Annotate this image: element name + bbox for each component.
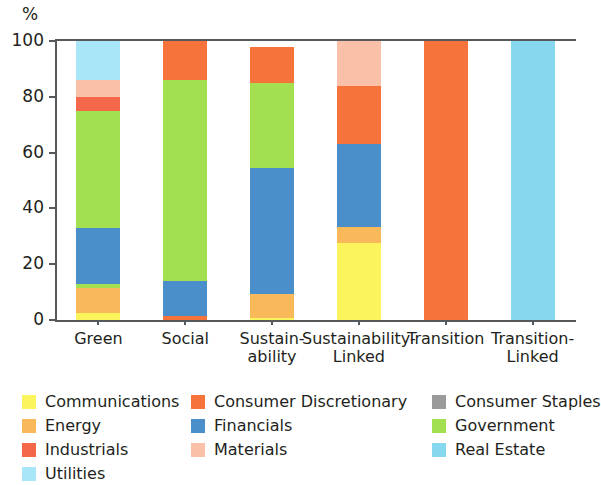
bar-segment-consumer-discretionary[interactable] (250, 47, 294, 83)
bar-segment-materials[interactable] (76, 80, 120, 97)
bar-segment-energy[interactable] (337, 227, 381, 244)
bar-segment-communications[interactable] (76, 313, 120, 320)
legend-item-communications[interactable]: Communications (22, 390, 179, 414)
x-axis-line (55, 320, 576, 322)
legend-swatch-consumer_staples (432, 395, 446, 409)
legend-label-real_estate: Real Estate (455, 442, 545, 458)
legend-swatch-communications (22, 395, 36, 409)
y-axis-tick-label-0: 0 (0, 311, 44, 328)
legend-item-energy[interactable]: Energy (22, 414, 179, 438)
y-axis-tick-label-100: 100 (0, 32, 44, 49)
legend-column-3: Consumer StaplesGovernmentReal Estate (432, 390, 601, 462)
legend-swatch-consumer_discretionary (191, 395, 205, 409)
bar-segment-financials[interactable] (163, 281, 207, 316)
bar-social[interactable] (163, 41, 207, 320)
x-axis-label-transition-linked: Transition-Linked (473, 330, 593, 366)
legend-column-1: CommunicationsEnergyIndustrialsUtilities (22, 390, 179, 485)
bar-segment-government[interactable] (250, 83, 294, 168)
x-axis-tick-5 (532, 320, 534, 325)
x-axis-label-line: Linked (299, 348, 419, 366)
bar-segment-industrials[interactable] (76, 97, 120, 111)
y-axis-unit-label: % (22, 4, 38, 24)
bar-segment-utilities[interactable] (76, 41, 120, 80)
legend-item-financials[interactable]: Financials (191, 414, 407, 438)
bar-segment-government[interactable] (76, 111, 120, 228)
bar-sustainability[interactable] (250, 41, 294, 320)
legend-item-government[interactable]: Government (432, 414, 601, 438)
bar-green[interactable] (76, 41, 120, 320)
bar-segment-communications[interactable] (250, 318, 294, 320)
bar-segment-government[interactable] (163, 80, 207, 281)
legend-label-energy: Energy (45, 418, 101, 434)
legend-swatch-real_estate (432, 443, 446, 457)
legend-swatch-materials (191, 443, 205, 457)
bar-segment-energy[interactable] (76, 288, 120, 313)
legend-label-communications: Communications (45, 394, 179, 410)
x-axis-label-line: Linked (473, 348, 593, 366)
bar-segment-consumer-discretionary[interactable] (424, 41, 468, 320)
legend-swatch-financials (191, 419, 205, 433)
bar-segment-consumer-discretionary[interactable] (163, 41, 207, 80)
bar-segment-financials[interactable] (250, 168, 294, 294)
bar-segment-consumer-discretionary[interactable] (337, 86, 381, 145)
x-axis-tick-2 (271, 320, 273, 325)
bar-segment-real-estate[interactable] (511, 41, 555, 320)
legend-label-financials: Financials (214, 418, 292, 434)
legend-item-consumer_discretionary[interactable]: Consumer Discretionary (191, 390, 407, 414)
y-axis-tick-label-80: 80 (0, 88, 44, 105)
legend-label-industrials: Industrials (45, 442, 128, 458)
bar-segment-consumer-discretionary[interactable] (163, 316, 207, 320)
bar-segment-communications[interactable] (337, 243, 381, 320)
legend-swatch-government (432, 419, 446, 433)
legend-item-utilities[interactable]: Utilities (22, 462, 179, 485)
legend-item-industrials[interactable]: Industrials (22, 438, 179, 462)
bar-transition[interactable] (424, 41, 468, 320)
legend-swatch-energy (22, 419, 36, 433)
legend-column-2: Consumer DiscretionaryFinancialsMaterial… (191, 390, 407, 462)
x-axis-tick-4 (445, 320, 447, 325)
legend-swatch-industrials (22, 443, 36, 457)
legend-label-consumer_discretionary: Consumer Discretionary (214, 394, 407, 410)
bar-transition-linked[interactable] (511, 41, 555, 320)
legend-label-utilities: Utilities (45, 466, 105, 482)
legend-item-consumer_staples[interactable]: Consumer Staples (432, 390, 601, 414)
x-axis-label-line: Transition- (473, 330, 593, 348)
legend-item-real_estate[interactable]: Real Estate (432, 438, 601, 462)
legend-label-materials: Materials (214, 442, 287, 458)
x-axis-tick-0 (97, 320, 99, 325)
bar-segment-energy[interactable] (250, 294, 294, 319)
bar-sustainability-linked[interactable] (337, 41, 381, 320)
plot-area (55, 41, 575, 320)
x-axis-tick-1 (184, 320, 186, 325)
y-axis-tick-label-20: 20 (0, 255, 44, 272)
y-axis-tick-label-40: 40 (0, 199, 44, 216)
legend-label-consumer_staples: Consumer Staples (455, 394, 601, 410)
bar-segment-materials[interactable] (337, 41, 381, 86)
y-axis-tick-label-60: 60 (0, 144, 44, 161)
legend-item-materials[interactable]: Materials (191, 438, 407, 462)
bar-segment-financials[interactable] (337, 144, 381, 226)
legend-swatch-utilities (22, 467, 36, 481)
x-axis-tick-3 (358, 320, 360, 325)
legend-label-government: Government (455, 418, 555, 434)
bar-segment-financials[interactable] (76, 228, 120, 284)
